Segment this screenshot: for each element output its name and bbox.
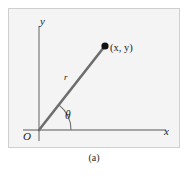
polar-coordinate-figure: y x O r θ (x, y) (a) <box>0 0 188 177</box>
point-marker <box>101 42 108 49</box>
diagram-canvas <box>9 9 181 149</box>
figure-panel: y x O r θ (x, y) <box>8 8 180 148</box>
y-axis-label: y <box>40 16 45 27</box>
angle-theta-label: θ <box>65 110 71 122</box>
radius-label: r <box>64 73 68 82</box>
radius-ray-line <box>39 47 105 131</box>
point-coordinates-label: (x, y) <box>110 43 133 54</box>
x-axis-label: x <box>164 126 169 137</box>
origin-label: O <box>23 131 31 142</box>
figure-caption: (a) <box>0 152 188 163</box>
